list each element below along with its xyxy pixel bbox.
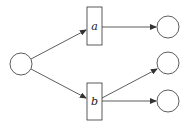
place-input	[10, 53, 32, 75]
place-output-1	[157, 16, 179, 38]
transition-a-label: a	[91, 20, 98, 33]
place-output-3	[157, 90, 179, 112]
petri-net-diagram: a b	[0, 0, 190, 126]
arc-p0-to-a	[31, 30, 86, 59]
arc-p0-to-b	[31, 69, 86, 98]
arc-b-to-p2	[102, 69, 157, 98]
transition-b-label: b	[91, 95, 98, 108]
place-output-2	[157, 52, 179, 74]
